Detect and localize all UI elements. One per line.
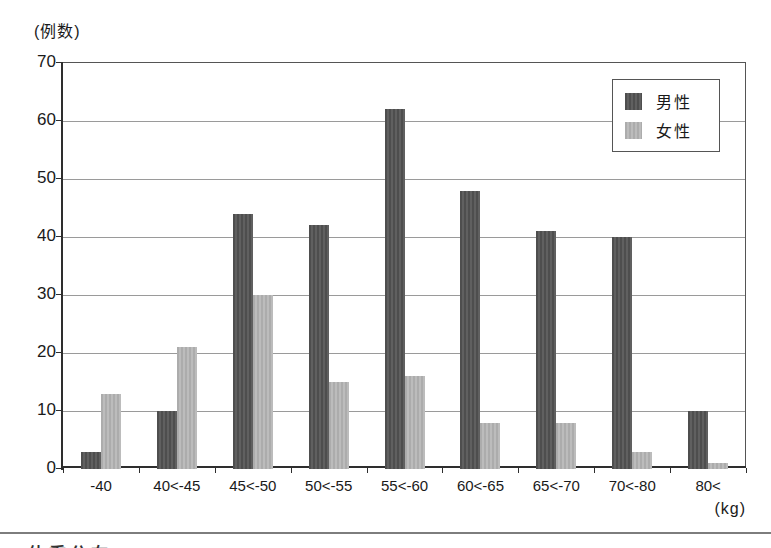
bar-male-5 xyxy=(460,191,480,469)
x-tick-mark-6 xyxy=(518,468,519,473)
legend-item-male: 男性 xyxy=(613,89,719,113)
bar-female-5 xyxy=(480,423,500,469)
x-tick-mark-5 xyxy=(442,468,443,473)
bar-male-0 xyxy=(81,452,101,469)
bar-female-8 xyxy=(708,463,728,469)
x-axis-unit-label: (kg) xyxy=(646,500,746,518)
x-tick-mark-3 xyxy=(291,468,292,473)
y-tick-label-70: 70 xyxy=(16,53,56,70)
y-tick-mark-0 xyxy=(56,468,62,469)
bar-male-7 xyxy=(612,237,632,469)
bar-male-3 xyxy=(309,225,329,469)
y-tick-label-10: 10 xyxy=(16,401,56,418)
x-tick-mark-7 xyxy=(594,468,595,473)
y-tick-mark-60 xyxy=(56,120,62,121)
y-axis-line xyxy=(61,62,63,470)
bar-female-3 xyxy=(329,382,349,469)
y-tick-mark-10 xyxy=(56,410,62,411)
female-series-swatch-icon xyxy=(625,122,642,139)
bar-male-6 xyxy=(536,231,556,469)
bar-female-4 xyxy=(405,376,425,469)
y-tick-label-20: 20 xyxy=(16,343,56,360)
x-tick-mark-0 xyxy=(63,468,64,473)
y-tick-label-60: 60 xyxy=(16,111,56,128)
bar-male-4 xyxy=(385,109,405,469)
x-tick-mark-8 xyxy=(670,468,671,473)
bar-male-2 xyxy=(233,214,253,469)
legend: 男性 女性 xyxy=(612,79,720,152)
y-tick-mark-40 xyxy=(56,236,62,237)
y-tick-label-50: 50 xyxy=(16,169,56,186)
x-tick-label-0: -40 xyxy=(63,477,139,494)
legend-label-female: 女性 xyxy=(656,118,692,142)
bar-female-6 xyxy=(556,423,576,469)
bar-male-8 xyxy=(688,411,708,469)
page-divider xyxy=(0,532,771,534)
legend-item-female: 女性 xyxy=(613,118,719,142)
bar-female-2 xyxy=(253,295,273,469)
y-tick-mark-70 xyxy=(56,62,62,63)
x-tick-label-1: 40<-45 xyxy=(139,477,215,494)
y-tick-mark-50 xyxy=(56,178,62,179)
y-tick-mark-20 xyxy=(56,352,62,353)
bar-male-1 xyxy=(157,411,177,469)
bar-female-1 xyxy=(177,347,197,469)
x-tick-label-7: 70<-80 xyxy=(594,477,670,494)
x-tick-mark-4 xyxy=(367,468,368,473)
weight-distribution-chart: (例数) 010203040506070 -4040<-4545<-5050<-… xyxy=(0,0,771,548)
y-tick-label-30: 30 xyxy=(16,285,56,302)
x-tick-label-4: 55<-60 xyxy=(367,477,443,494)
cropped-caption-text: 体重分布 xyxy=(28,540,112,548)
x-tick-label-3: 50<-55 xyxy=(291,477,367,494)
x-tick-mark-1 xyxy=(139,468,140,473)
legend-label-male: 男性 xyxy=(656,89,692,113)
y-tick-mark-30 xyxy=(56,294,62,295)
x-tick-mark-2 xyxy=(215,468,216,473)
x-tick-label-2: 45<-50 xyxy=(215,477,291,494)
x-tick-label-8: 80< xyxy=(670,477,746,494)
y-tick-label-0: 0 xyxy=(16,459,56,476)
male-series-swatch-icon xyxy=(625,93,642,110)
x-tick-label-6: 65<-70 xyxy=(518,477,594,494)
bar-female-0 xyxy=(101,394,121,469)
x-tick-label-5: 60<-65 xyxy=(442,477,518,494)
y-tick-label-40: 40 xyxy=(16,227,56,244)
bar-female-7 xyxy=(632,452,652,469)
y-axis-unit-label: (例数) xyxy=(34,18,81,42)
x-tick-mark-9 xyxy=(746,468,747,473)
